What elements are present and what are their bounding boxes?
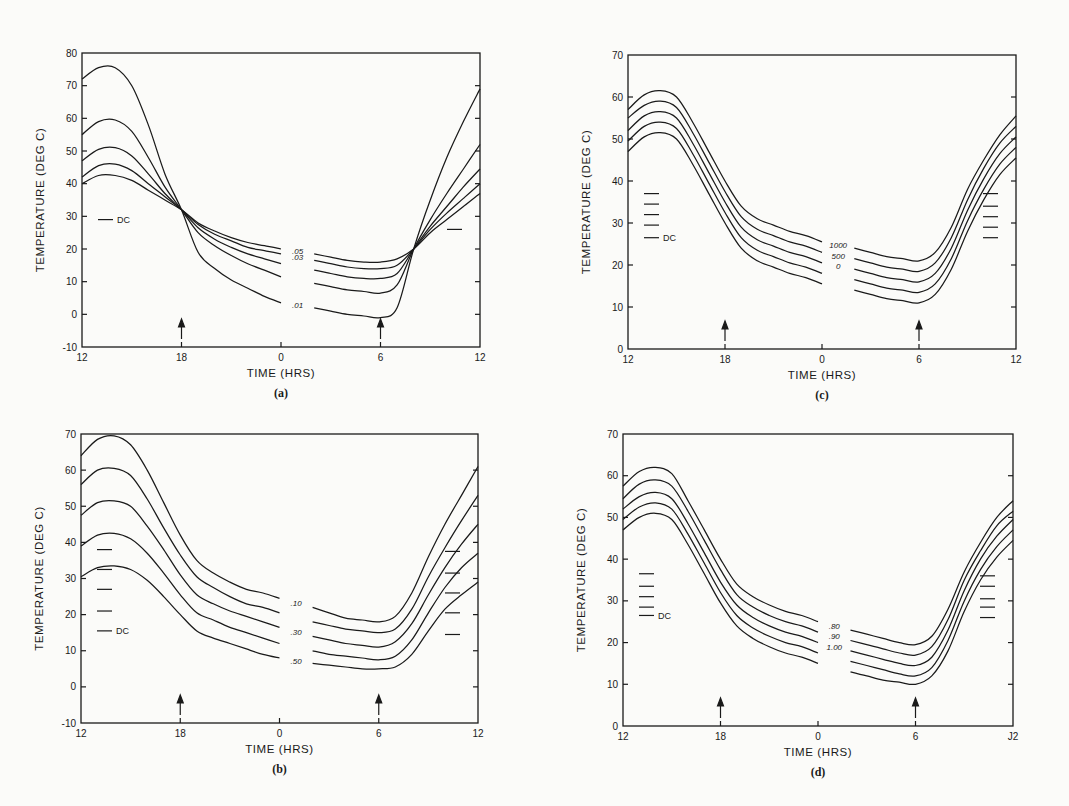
curve-label: .90 [829,632,841,641]
x-tick-label: 0 [815,731,821,742]
x-tick-label: 12 [617,731,629,742]
curve-0-90 [851,520,1014,666]
y-tick-label: 40 [607,554,619,565]
curve-0-90 [623,492,818,642]
curve-0-80 [623,467,818,621]
curve-0-95 [623,503,818,653]
panel-caption: (d) [811,765,826,779]
plot-frame-d [623,434,1013,726]
x-tick-label: 6 [913,731,919,742]
curve-1-00 [623,513,818,663]
curve-0-95 [851,530,1014,676]
curve-label: .80 [829,622,841,631]
chart-panel-d: 010203040506070121806J2TIME (HRS)TEMPERA… [0,0,1069,806]
y-axis-title: TEMPERATURE (DEG C) [575,508,587,653]
curve-label: 1.00 [826,643,842,652]
y-tick-label: 0 [612,721,618,732]
up-arrow-icon [913,698,919,718]
curve-1-00 [851,540,1014,684]
y-tick-label: 70 [607,429,619,440]
x-axis-title: TIME (HRS) [784,746,853,758]
up-arrow-icon [718,698,724,718]
x-tick-label: 18 [715,731,727,742]
chart-svg-d: 010203040506070121806J2TIME (HRS)TEMPERA… [0,0,1069,806]
y-tick-label: 60 [607,470,619,481]
curve-0-85 [851,511,1014,655]
y-tick-label: 50 [607,512,619,523]
y-tick-label: 30 [607,595,619,606]
curve-0-80 [851,501,1014,645]
dc-label: DC [658,611,671,621]
y-tick-label: 20 [607,637,619,648]
y-tick-label: 10 [607,679,619,690]
x-tick-label: J2 [1008,731,1019,742]
